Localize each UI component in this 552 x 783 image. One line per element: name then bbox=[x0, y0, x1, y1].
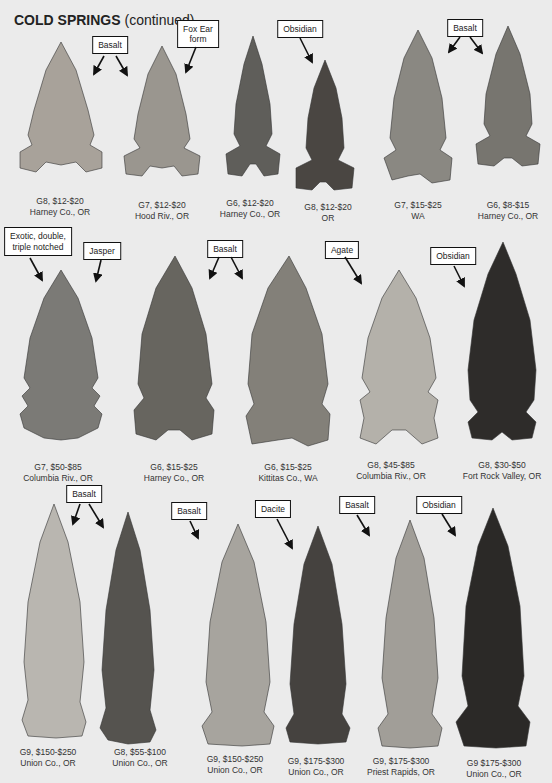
material-label: Obsidian bbox=[430, 247, 476, 265]
point-caption: G9, $175-$300Union Co., OR bbox=[288, 756, 345, 777]
grade-price: G7, $50-$85 bbox=[23, 462, 93, 473]
arrowhead-image bbox=[120, 44, 204, 184]
point-shape bbox=[476, 26, 540, 166]
point-shape bbox=[378, 520, 442, 748]
point-shape bbox=[468, 242, 536, 440]
grade-price: G9, $175-$300 bbox=[288, 756, 345, 767]
grade-price: G8, $30-$50 bbox=[463, 460, 542, 471]
point-caption: G6, $8-$15Harney Co., OR bbox=[478, 200, 538, 221]
location: Kittitas Co., WA bbox=[258, 473, 317, 484]
point-caption: G6, $15-$25Kittitas Co., WA bbox=[258, 462, 317, 483]
arrowhead-image bbox=[198, 522, 278, 748]
point-caption: G6, $12-$20Harney Co., OR bbox=[220, 198, 280, 219]
title-main: COLD SPRINGS bbox=[14, 12, 121, 28]
arrowhead-image bbox=[242, 254, 336, 450]
material-label: Jasper bbox=[83, 242, 121, 260]
material-label: Fox Ear form bbox=[177, 20, 219, 48]
location: Harney Co., OR bbox=[478, 211, 538, 222]
material-label: Basalt bbox=[207, 240, 243, 258]
location: Union Co., OR bbox=[288, 767, 345, 778]
material-label: Agate bbox=[325, 241, 359, 259]
grade-price: G9 $175-$300 bbox=[466, 758, 521, 769]
arrowhead-image bbox=[16, 40, 106, 180]
grade-price: G9, $150-$250 bbox=[207, 754, 264, 765]
arrowhead-image bbox=[472, 24, 544, 170]
point-caption: G8, $30-$50Fort Rock Valley, OR bbox=[463, 460, 542, 481]
grade-price: G8, $12-$20 bbox=[304, 202, 351, 213]
arrowhead-image bbox=[16, 502, 92, 740]
point-caption: G7, $50-$85Columbia Riv., OR bbox=[23, 462, 93, 483]
location: Harney Co., OR bbox=[144, 473, 204, 484]
location: Hood Riv., OR bbox=[135, 211, 189, 222]
material-label: Dacite bbox=[255, 500, 291, 518]
grade-price: G6, $15-$25 bbox=[258, 462, 317, 473]
arrowhead-image bbox=[380, 28, 456, 188]
location: Harney Co., OR bbox=[220, 209, 280, 220]
grade-price: G6, $12-$20 bbox=[220, 198, 280, 209]
location: Columbia Riv., OR bbox=[356, 471, 426, 482]
point-caption: G7, $15-$25WA bbox=[394, 200, 441, 221]
point-shape bbox=[226, 36, 280, 176]
material-label: Basalt bbox=[339, 496, 375, 514]
location: Fort Rock Valley, OR bbox=[463, 471, 542, 482]
grade-price: G6, $8-$15 bbox=[478, 200, 538, 211]
arrowhead-image bbox=[356, 268, 442, 450]
location: OR bbox=[304, 213, 351, 224]
arrowhead-image bbox=[96, 510, 160, 746]
point-caption: G9 $175-$300Union Co., OR bbox=[466, 758, 521, 779]
grade-price: G7, $12-$20 bbox=[135, 200, 189, 211]
location: Harney Co., OR bbox=[30, 207, 90, 218]
grade-price: G7, $15-$25 bbox=[394, 200, 441, 211]
grade-price: G6, $15-$25 bbox=[144, 462, 204, 473]
arrow bbox=[454, 266, 464, 286]
point-shape bbox=[124, 46, 200, 176]
location: Union Co., OR bbox=[112, 758, 167, 769]
arrowhead-image bbox=[282, 524, 354, 746]
point-shape bbox=[20, 270, 102, 440]
material-label: Obsidian bbox=[277, 20, 323, 38]
point-shape bbox=[296, 60, 354, 190]
point-shape bbox=[20, 42, 102, 172]
arrow bbox=[190, 521, 198, 538]
location: Union Co., OR bbox=[466, 769, 521, 780]
point-shape bbox=[100, 512, 156, 744]
material-label: Basalt bbox=[66, 485, 102, 503]
point-caption: G6, $15-$25Harney Co., OR bbox=[144, 462, 204, 483]
arrowhead-image bbox=[372, 518, 448, 750]
point-caption: G8, $12-$20OR bbox=[304, 202, 351, 223]
point-shape bbox=[384, 30, 452, 183]
arrowhead-image bbox=[452, 506, 534, 750]
location: Union Co., OR bbox=[20, 758, 77, 769]
location: WA bbox=[394, 211, 441, 222]
grade-price: G8, $55-$100 bbox=[112, 747, 167, 758]
point-caption: G7, $12-$20Hood Riv., OR bbox=[135, 200, 189, 221]
material-label: Basalt bbox=[171, 502, 207, 520]
point-shape bbox=[246, 256, 330, 446]
arrowhead-image bbox=[18, 268, 104, 446]
point-caption: G9, $175-$300Priest Rapids, OR bbox=[367, 756, 435, 777]
arrowhead-image bbox=[132, 254, 218, 446]
arrowhead-image bbox=[464, 240, 542, 444]
location: Priest Rapids, OR bbox=[367, 767, 435, 778]
arrow bbox=[357, 515, 369, 535]
material-label: Exotic, double, triple notched bbox=[4, 227, 72, 256]
point-shape bbox=[202, 524, 274, 746]
location: Columbia Riv., OR bbox=[23, 473, 93, 484]
arrowhead-image bbox=[290, 58, 360, 196]
point-shape bbox=[286, 526, 350, 744]
grade-price: G9, $150-$250 bbox=[20, 747, 77, 758]
point-shape bbox=[456, 508, 530, 748]
material-label: Basalt bbox=[92, 36, 128, 54]
point-caption: G9, $150-$250Union Co., OR bbox=[20, 747, 77, 768]
point-shape bbox=[360, 270, 438, 444]
grade-price: G8, $12-$20 bbox=[30, 196, 90, 207]
grade-price: G8, $45-$85 bbox=[356, 460, 426, 471]
arrow bbox=[231, 257, 242, 278]
point-caption: G8, $12-$20Harney Co., OR bbox=[30, 196, 90, 217]
point-caption: G8, $55-$100Union Co., OR bbox=[112, 747, 167, 768]
grade-price: G9, $175-$300 bbox=[367, 756, 435, 767]
arrowhead-image bbox=[220, 34, 286, 184]
material-label: Basalt bbox=[447, 19, 483, 37]
material-label: Obsidian bbox=[416, 496, 462, 514]
point-caption: G8, $45-$85Columbia Riv., OR bbox=[356, 460, 426, 481]
